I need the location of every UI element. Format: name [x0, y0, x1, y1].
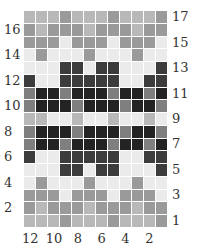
chart-cell [36, 37, 47, 49]
chart-cell [48, 100, 59, 112]
chart-cell [84, 24, 95, 36]
chart-cell [108, 139, 119, 151]
chart-cell [96, 177, 107, 189]
chart-cell [132, 215, 143, 227]
chart-cell [36, 177, 47, 189]
chart-cell [156, 215, 167, 227]
chart-cell [96, 202, 107, 214]
chart-cell [36, 62, 47, 74]
chart-cell [60, 24, 71, 36]
chart-cell [48, 164, 59, 176]
chart-cell [132, 164, 143, 176]
chart-cell [48, 215, 59, 227]
chart-cell [156, 139, 167, 151]
chart-cell [156, 202, 167, 214]
chart-cell [108, 100, 119, 112]
chart-cell [156, 49, 167, 61]
chart-cell [36, 126, 47, 138]
chart-cell [72, 49, 83, 61]
chart-cell [24, 24, 35, 36]
chart-cell [60, 177, 71, 189]
chart-cell [72, 113, 83, 125]
chart-cell [24, 177, 35, 189]
chart-cell [120, 190, 131, 202]
chart-cell [156, 88, 167, 100]
row-label-right: 17 [172, 10, 189, 23]
chart-cell [108, 113, 119, 125]
column-label: 8 [74, 232, 82, 245]
chart-cell [120, 202, 131, 214]
chart-cell [132, 49, 143, 61]
column-label: 6 [97, 232, 105, 245]
chart-cell [144, 37, 155, 49]
chart-cell [132, 75, 143, 87]
chart-cell [96, 215, 107, 227]
chart-cell [120, 11, 131, 23]
chart-cell [108, 37, 119, 49]
chart-cell [144, 164, 155, 176]
chart-cell [96, 37, 107, 49]
chart-cell [48, 113, 59, 125]
chart-cell [84, 113, 95, 125]
chart-cell [108, 49, 119, 61]
chart-cell [60, 126, 71, 138]
chart-cell [120, 139, 131, 151]
chart-cell [156, 164, 167, 176]
chart-cell [108, 190, 119, 202]
chart-cell [132, 100, 143, 112]
chart-cell [48, 75, 59, 87]
chart-cell [48, 202, 59, 214]
chart-cell [36, 24, 47, 36]
chart-cell [132, 139, 143, 151]
chart-cell [108, 202, 119, 214]
chart-cell [60, 139, 71, 151]
chart-cell [156, 37, 167, 49]
chart-cell [24, 75, 35, 87]
chart-cell [132, 24, 143, 36]
chart-cell [84, 126, 95, 138]
chart-cell [24, 151, 35, 163]
chart-cell [72, 139, 83, 151]
row-label-left: 8 [4, 125, 12, 138]
row-label-right: 5 [172, 163, 180, 176]
chart-cell [48, 11, 59, 23]
chart-cell [84, 88, 95, 100]
chart-cell [84, 37, 95, 49]
chart-cell [108, 75, 119, 87]
chart-cell [108, 126, 119, 138]
chart-cell [36, 202, 47, 214]
row-label-left: 12 [4, 74, 21, 87]
row-label-right: 15 [172, 36, 189, 49]
chart-cell [60, 151, 71, 163]
chart-cell [72, 62, 83, 74]
chart-cell [144, 126, 155, 138]
chart-cell [96, 151, 107, 163]
chart-cell [84, 62, 95, 74]
chart-cell [24, 190, 35, 202]
chart-cell [144, 177, 155, 189]
chart-cell [72, 37, 83, 49]
row-label-left: 4 [4, 176, 12, 189]
chart-cell [48, 190, 59, 202]
chart-cell [108, 11, 119, 23]
chart-cell [84, 177, 95, 189]
chart-cell [156, 62, 167, 74]
row-label-left: 16 [4, 23, 21, 36]
chart-cell [36, 164, 47, 176]
chart-cell [108, 177, 119, 189]
chart-cell [156, 11, 167, 23]
chart-cell [96, 190, 107, 202]
chart-cell [24, 49, 35, 61]
chart-cell [156, 113, 167, 125]
chart-cell [156, 190, 167, 202]
chart-cell [36, 100, 47, 112]
chart-cell [60, 164, 71, 176]
chart-cell [24, 139, 35, 151]
chart-cell [108, 164, 119, 176]
chart-cell [72, 177, 83, 189]
chart-cell [24, 164, 35, 176]
chart-cell [84, 75, 95, 87]
chart-cell [36, 49, 47, 61]
chart-cell [132, 126, 143, 138]
chart-cell [144, 190, 155, 202]
